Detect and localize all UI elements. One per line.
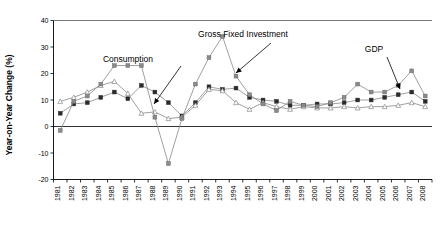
x-tick-label: 1982 bbox=[68, 185, 75, 201]
data-point-marker bbox=[356, 98, 360, 102]
x-tick-label: 1983 bbox=[81, 185, 88, 201]
data-point-marker bbox=[383, 95, 387, 99]
data-point-marker bbox=[234, 74, 238, 78]
year-on-year-change-line-chart: -20-10010203040 198119821983198419851986… bbox=[0, 0, 443, 230]
data-point-marker bbox=[356, 82, 360, 86]
y-tick-label: 10 bbox=[41, 97, 49, 104]
data-point-marker bbox=[329, 101, 333, 105]
data-point-marker bbox=[153, 115, 157, 119]
data-point-marker bbox=[58, 111, 62, 115]
y-axis-title: Year-on-Year Change (%) bbox=[4, 54, 14, 155]
x-tick-label: 2007 bbox=[406, 185, 413, 201]
annotation-label: GDP bbox=[365, 44, 384, 54]
x-tick-label: 1987 bbox=[135, 185, 142, 201]
x-tick-label: 2005 bbox=[379, 185, 386, 201]
data-point-marker bbox=[139, 84, 143, 88]
x-tick-label: 1997 bbox=[271, 185, 278, 201]
y-tick-label: 30 bbox=[41, 44, 49, 51]
data-point-marker bbox=[126, 64, 130, 68]
data-point-marker bbox=[383, 90, 387, 94]
data-point-marker bbox=[369, 98, 373, 102]
data-point-marker bbox=[99, 82, 103, 86]
x-tick-label: 1988 bbox=[149, 185, 156, 201]
data-point-marker bbox=[315, 105, 319, 109]
data-point-marker bbox=[302, 103, 306, 107]
x-tick-label: 1995 bbox=[244, 185, 251, 201]
x-tick-label: 1992 bbox=[203, 185, 210, 201]
data-point-marker bbox=[288, 99, 292, 103]
x-tick-label: 2002 bbox=[338, 185, 345, 201]
x-tick-label: 1986 bbox=[122, 185, 129, 201]
data-point-marker bbox=[72, 99, 76, 103]
x-tick-label: 1985 bbox=[108, 185, 115, 201]
annotation-label: Consumption bbox=[103, 54, 153, 64]
x-tick-label: 1996 bbox=[257, 185, 264, 201]
x-tick-label: 2004 bbox=[365, 185, 372, 201]
data-point-marker bbox=[58, 129, 62, 133]
data-point-marker bbox=[126, 97, 130, 101]
data-point-marker bbox=[167, 162, 171, 166]
data-point-marker bbox=[342, 95, 346, 99]
data-point-marker bbox=[423, 94, 427, 98]
data-point-marker bbox=[275, 109, 279, 113]
x-tick-label: 2000 bbox=[311, 185, 318, 201]
x-tick-label: 1998 bbox=[284, 185, 291, 201]
data-point-marker bbox=[369, 90, 373, 94]
data-point-marker bbox=[153, 90, 157, 94]
data-point-marker bbox=[396, 93, 400, 97]
x-tick-label: 1984 bbox=[95, 185, 102, 201]
x-tick-label: 1994 bbox=[230, 185, 237, 201]
data-point-marker bbox=[248, 93, 252, 97]
data-point-marker bbox=[85, 94, 89, 98]
data-point-marker bbox=[423, 99, 427, 103]
data-point-marker bbox=[261, 102, 265, 106]
data-point-marker bbox=[139, 64, 143, 68]
x-tick-label: 1993 bbox=[216, 185, 223, 201]
annotation-label: Gross Fixed Investment bbox=[198, 29, 288, 39]
data-point-marker bbox=[85, 101, 89, 105]
x-tick-label: 2006 bbox=[392, 185, 399, 201]
x-tick-label: 2003 bbox=[352, 185, 359, 201]
data-point-marker bbox=[112, 64, 116, 68]
x-tick-label: 2008 bbox=[419, 185, 426, 201]
data-point-marker bbox=[112, 90, 116, 94]
y-tick-label: 0 bbox=[45, 123, 49, 130]
data-point-marker bbox=[180, 117, 184, 121]
data-point-marker bbox=[167, 101, 171, 105]
x-tick-label: 1981 bbox=[54, 185, 61, 201]
x-tick-label: 1990 bbox=[176, 185, 183, 201]
data-point-marker bbox=[234, 86, 238, 90]
data-point-marker bbox=[410, 69, 414, 73]
x-tick-label: 1991 bbox=[189, 185, 196, 201]
data-point-marker bbox=[99, 95, 103, 99]
y-tick-label: -10 bbox=[38, 150, 48, 157]
y-tick-label: 20 bbox=[41, 70, 49, 77]
chart-container: -20-10010203040 198119821983198419851986… bbox=[0, 0, 443, 230]
y-tick-label: 40 bbox=[41, 17, 49, 24]
x-tick-label: 1999 bbox=[298, 185, 305, 201]
y-tick-label: -20 bbox=[38, 176, 48, 183]
data-point-marker bbox=[275, 99, 279, 103]
data-point-marker bbox=[207, 56, 211, 60]
x-tick-label: 2001 bbox=[325, 185, 332, 201]
data-point-marker bbox=[410, 90, 414, 94]
data-point-marker bbox=[194, 82, 198, 86]
x-tick-label: 1989 bbox=[162, 185, 169, 201]
